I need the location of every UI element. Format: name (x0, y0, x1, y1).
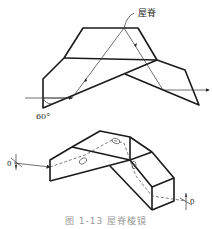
prism-right-wing (125, 60, 199, 105)
prism3d-top (50, 131, 152, 181)
prism-top-outline (64, 28, 157, 60)
input-axis-label: 0 (7, 160, 11, 168)
prism3d-roof-left (72, 147, 130, 160)
angle-marker: 60° (36, 98, 52, 121)
bottom-view-prism (50, 131, 174, 210)
ridge-callout: 屋脊 (124, 7, 156, 28)
top-view-prism (43, 28, 199, 108)
input-axis-marker: 0 (7, 154, 22, 170)
ridge-label: 屋脊 (138, 7, 156, 18)
angle-label: 60° (36, 112, 50, 121)
bottom-view-light-path (14, 137, 186, 201)
output-axis-marker: 0 (180, 193, 194, 210)
output-axis-label: 0 (190, 198, 194, 206)
top-view-light-ray (25, 28, 209, 98)
prism-left-outline (43, 58, 157, 108)
figure-caption: 图 1-13 屋脊棱镜 (0, 214, 212, 227)
diagram-canvas: 屋脊 60° 0 0 (0, 0, 212, 229)
